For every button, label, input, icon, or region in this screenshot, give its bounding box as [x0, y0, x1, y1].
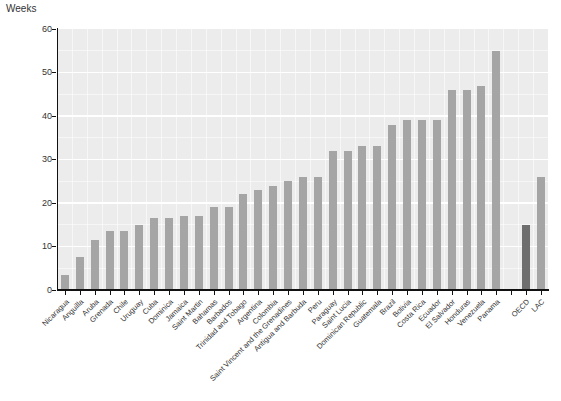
bar-ecuador — [433, 120, 441, 290]
x-tick — [199, 291, 200, 295]
bar-nicaragua — [61, 275, 69, 290]
x-tick — [437, 291, 438, 295]
bar-honduras — [463, 90, 471, 290]
slot-honduras: Honduras — [459, 29, 474, 290]
slot-anguilla: Anguilla — [72, 29, 87, 290]
slot-jamaica: Jamaica — [176, 29, 191, 290]
slot-peru: Peru — [310, 29, 325, 290]
x-tick — [124, 291, 125, 295]
x-tick — [407, 291, 408, 295]
x-tick — [392, 291, 393, 295]
slot-antigua-and-barbuda: Antigua and Barbuda — [295, 29, 310, 290]
bar-lac — [537, 177, 545, 290]
slot-aruba: Aruba — [87, 29, 102, 290]
slot-bahamas: Bahamas — [206, 29, 221, 290]
y-label-50: 50 — [18, 68, 52, 77]
y-label-0: 0 — [18, 286, 52, 295]
y-axis-unit-label: Weeks — [6, 3, 36, 14]
x-tick — [333, 291, 334, 295]
slot-colombia: Colombia — [265, 29, 280, 290]
y-tick-40 — [52, 116, 56, 117]
slot-argentina: Argentina — [250, 29, 265, 290]
slot-el-salvador: El Salvador — [444, 29, 459, 290]
bar-guatemala — [373, 146, 381, 290]
bar-brazil — [388, 125, 396, 290]
slot-grenada: Grenada — [102, 29, 117, 290]
bar-paraguay — [329, 151, 337, 290]
x-tick — [377, 291, 378, 295]
slot-nicaragua: Nicaragua — [58, 29, 72, 290]
y-axis-line — [57, 28, 59, 290]
slot-saint-lucia: Saint Lucia — [340, 29, 355, 290]
y-tick-60 — [52, 29, 56, 30]
x-tick — [80, 291, 81, 295]
x-tick — [526, 291, 527, 295]
bar-panama — [492, 51, 500, 290]
slot-spacer — [503, 29, 518, 290]
x-tick — [467, 291, 468, 295]
x-tick — [496, 291, 497, 295]
slot-dominican-republic: Dominican Republic — [355, 29, 370, 290]
x-tick — [65, 291, 66, 295]
plot-area: NicaraguaAnguillaArubaGrenadaChileUrugua… — [58, 29, 548, 290]
y-label-30: 30 — [18, 155, 52, 164]
slot-brazil: Brazil — [384, 29, 399, 290]
x-axis-line — [57, 289, 549, 291]
bar-grenada — [106, 231, 114, 290]
x-tick — [348, 291, 349, 295]
x-tick — [229, 291, 230, 295]
slot-guatemala: Guatemala — [369, 29, 384, 290]
bar-peru — [314, 177, 322, 290]
x-tick — [243, 291, 244, 295]
bar-slots: NicaraguaAnguillaArubaGrenadaChileUrugua… — [58, 29, 548, 290]
bar-argentina — [254, 190, 262, 290]
x-tick — [139, 291, 140, 295]
bar-oecd — [522, 225, 530, 290]
x-tick — [362, 291, 363, 295]
x-tick — [184, 291, 185, 295]
x-tick — [511, 291, 512, 295]
bar-bahamas — [210, 207, 218, 290]
y-label-40: 40 — [18, 112, 52, 121]
x-tick — [303, 291, 304, 295]
x-label-lac: LAC — [531, 298, 547, 314]
slot-paraguay: Paraguay — [325, 29, 340, 290]
x-tick — [169, 291, 170, 295]
chart: Weeks NicaraguaAnguillaArubaGrenadaChile… — [0, 0, 561, 401]
x-tick — [258, 291, 259, 295]
x-tick — [273, 291, 274, 295]
bar-dominica — [165, 218, 173, 290]
y-tick-50 — [52, 72, 56, 73]
slot-ecuador: Ecuador — [429, 29, 444, 290]
slot-chile: Chile — [117, 29, 132, 290]
x-tick — [422, 291, 423, 295]
y-tick-0 — [52, 290, 56, 291]
slot-costa-rica: Costa Rica — [414, 29, 429, 290]
bar-costa-rica — [418, 120, 426, 290]
x-tick — [154, 291, 155, 295]
slot-saint-vincent-and-the-grenadines: Saint Vincent and the Grenadines — [280, 29, 295, 290]
bar-chile — [120, 231, 128, 290]
x-label-oecd: OECD — [511, 298, 532, 319]
x-tick — [110, 291, 111, 295]
x-tick — [481, 291, 482, 295]
y-label-10: 10 — [18, 242, 52, 251]
slot-bolivia: Bolivia — [399, 29, 414, 290]
bar-colombia — [269, 186, 277, 290]
y-tick-10 — [52, 246, 56, 247]
x-tick — [95, 291, 96, 295]
slot-saint-martin: Saint Martin — [191, 29, 206, 290]
y-tick-30 — [52, 159, 56, 160]
bar-saint-martin — [195, 216, 203, 290]
y-label-60: 60 — [18, 25, 52, 34]
bar-trinidad-and-tobago — [239, 194, 247, 290]
bar-venezuela — [477, 86, 485, 290]
slot-lac: LAC — [533, 29, 548, 290]
slot-panama: Panama — [488, 29, 503, 290]
x-tick — [214, 291, 215, 295]
slot-dominica: Dominica — [161, 29, 176, 290]
slot-uruguay: Uruguay — [131, 29, 146, 290]
bar-uruguay — [135, 225, 143, 290]
x-tick — [288, 291, 289, 295]
bar-antigua-and-barbuda — [299, 177, 307, 290]
